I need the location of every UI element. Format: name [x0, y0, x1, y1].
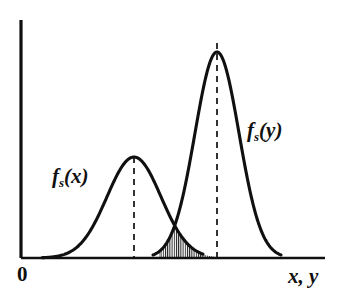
curve-label-fsy: fs(y): [247, 120, 282, 143]
curve-label-fsx-arg: (x): [64, 164, 89, 188]
curve-label-fsy-arg: (y): [259, 118, 282, 142]
figure-root: fs(x) fs(y) 0 x, y: [0, 0, 339, 296]
x-axis-label: x, y: [288, 266, 318, 287]
curve-label-fsx-base: f: [52, 164, 59, 188]
curve-label-fsx: fs(x): [52, 166, 89, 189]
plot-canvas: [0, 0, 339, 296]
curve-label-fsy-base: f: [247, 118, 254, 142]
origin-label: 0: [17, 264, 28, 285]
